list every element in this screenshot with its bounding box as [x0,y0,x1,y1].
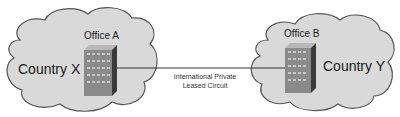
building-office-a-icon [84,45,117,96]
cloud-country-x [7,8,157,112]
circuit-label-line2: Leased Circuit [160,81,250,90]
circuit-label-line1: International Private [160,72,250,81]
building-office-b-icon [285,43,316,93]
country-y-label: Country Y [323,58,385,74]
circuit-label: International Private Leased Circuit [160,72,250,90]
office-b-label: Office B [284,28,319,39]
office-a-label: Office A [84,30,119,41]
country-x-label: Country X [18,61,80,77]
